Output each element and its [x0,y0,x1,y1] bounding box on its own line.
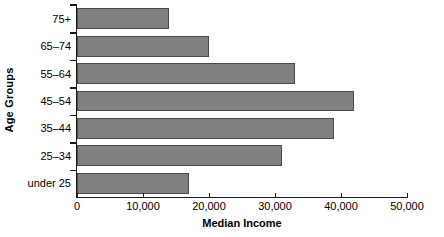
x-tick-label: 50,000 [390,200,424,212]
bar-65-74 [77,36,209,57]
plot-area [77,5,407,197]
x-tick [275,193,276,198]
bar-35-44 [77,118,334,139]
bar-row [77,145,407,166]
category-label: 55–64 [40,68,71,80]
bar-under-25 [77,173,189,194]
category-label: 75+ [52,13,71,25]
category-label: 25–34 [40,150,71,162]
x-tick [341,193,342,198]
bar-chart: Age Groups under 2525–3435–4445–5455–646… [0,0,444,237]
category-tick [70,142,77,144]
x-tick [143,193,144,198]
category-label: 35–44 [40,122,71,134]
x-tick-label: 20,000 [192,200,226,212]
bar-row [77,8,407,29]
category-tick [70,60,77,62]
category-tick [70,4,77,6]
bar-row [77,173,407,194]
category-label: under 25 [28,177,71,189]
category-label: 45–54 [40,95,71,107]
bar-row [77,118,407,139]
x-tick-label: 40,000 [324,200,358,212]
category-tick [70,170,77,172]
category-tick [70,115,77,117]
x-axis-title: Median Income [77,217,407,229]
bar-row [77,63,407,84]
bar-row [77,91,407,112]
bar-row [77,36,407,57]
x-tick-label: 30,000 [258,200,292,212]
x-axis-line [76,197,408,198]
category-tick [70,32,77,34]
bar-25-34 [77,145,282,166]
y-axis-title: Age Groups [0,0,18,200]
x-tick-label: 10,000 [126,200,160,212]
category-tick [70,87,77,89]
x-tick [407,193,408,198]
category-label: 65–74 [40,40,71,52]
bar-45-54 [77,91,354,112]
x-tick-label: 0 [74,200,80,212]
bar-55-64 [77,63,295,84]
x-tick [209,193,210,198]
y-axis-title-label: Age Groups [3,68,15,133]
bar-75- [77,8,169,29]
x-tick [77,193,78,198]
